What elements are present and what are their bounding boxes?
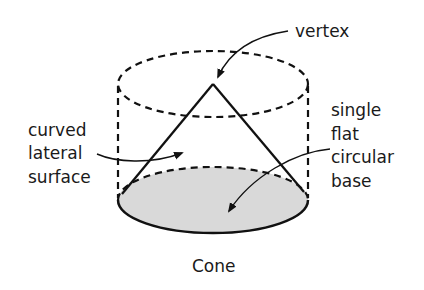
- lateral-label-line3: surface: [28, 167, 91, 187]
- base-label-line3: circular: [331, 147, 394, 167]
- lateral-label-line1: curved: [28, 120, 86, 140]
- lateral-arrow: [97, 153, 182, 161]
- base-label-line4: base: [331, 171, 372, 191]
- base-label-line2: flat: [331, 124, 359, 144]
- cone-diagram: vertex curved lateral surface single fla…: [0, 0, 424, 290]
- base-label-line1: single: [331, 100, 381, 120]
- vertex-arrow: [218, 31, 288, 77]
- vertex-label: vertex: [295, 21, 349, 41]
- diagram-title: Cone: [192, 256, 236, 276]
- lateral-label-line2: lateral: [28, 143, 82, 163]
